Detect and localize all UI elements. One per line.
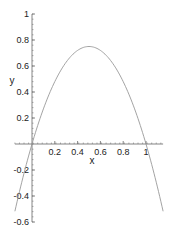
axes [15,14,163,222]
y-tick-label: 0.8 [16,35,29,45]
y-tick-label: -0.4 [13,191,29,201]
x-tick-label: 0.6 [94,147,107,157]
y-tick-label: 0.2 [16,113,29,123]
data-curve [15,47,163,212]
x-tick-label: 0.8 [117,147,130,157]
y-tick-label: 0.6 [16,61,29,71]
y-tick-label: 1 [24,9,29,19]
x-tick-label: 0.4 [71,147,84,157]
plot-area: 0.20.40.60.8110.80.60.40.2-0.2-0.4-0.6 x… [0,0,183,240]
ticks: 0.20.40.60.8110.80.60.40.2-0.2-0.4-0.6 [13,9,160,227]
y-axis-label: y [10,75,15,86]
y-tick-label: -0.6 [13,217,29,227]
x-axis-label: x [90,155,95,166]
x-tick-label: 0.2 [49,147,62,157]
y-tick-label: 0.4 [16,87,29,97]
y-tick-label: -0.2 [13,165,29,175]
